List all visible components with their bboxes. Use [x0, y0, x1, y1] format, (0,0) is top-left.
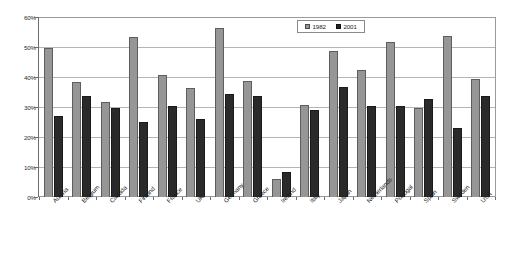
x-axis-tick-mark: [210, 197, 211, 200]
bar-group: [300, 18, 319, 197]
x-axis-tick-mark: [324, 197, 325, 200]
bar-sweden-2001: [453, 128, 462, 197]
bar-group: [357, 18, 376, 197]
legend-swatch-1982-icon: [305, 24, 310, 29]
x-axis-tick-mark: [495, 197, 496, 200]
y-axis-tick-label: 20%: [4, 134, 36, 141]
x-axis-tick-mark: [438, 197, 439, 200]
x-axis-tick-mark: [68, 197, 69, 200]
bar-group: [243, 18, 262, 197]
bar-belgium-1982: [72, 82, 81, 197]
bar-group: [272, 18, 291, 197]
bar-group: [101, 18, 120, 197]
y-axis-tick-label: 60%: [4, 14, 36, 21]
bar-austria-1982: [44, 48, 53, 197]
bar-belgium-2001: [82, 96, 91, 197]
bar-japan-2001: [339, 87, 348, 197]
bar-group: [72, 18, 91, 197]
bar-usa-1982: [471, 79, 480, 197]
x-axis-tick-mark: [467, 197, 468, 200]
y-axis-tick-label: 10%: [4, 164, 36, 171]
bar-finland-1982: [129, 37, 138, 197]
legend-item-2001: 2001: [336, 23, 357, 30]
bar-canada-2001: [111, 108, 120, 198]
bar-finland-2001: [139, 122, 148, 197]
bar-group: [386, 18, 405, 197]
bar-netherlands-2001: [367, 106, 376, 197]
bar-germany-1982: [215, 28, 224, 197]
chart-legend: 1982 2001: [297, 20, 365, 33]
y-axis-tick-label: 40%: [4, 74, 36, 81]
x-axis-tick-mark: [239, 197, 240, 200]
y-axis-tick-label: 50%: [4, 44, 36, 51]
bar-spain-1982: [414, 108, 423, 198]
bar-group: [129, 18, 148, 197]
bar-group: [44, 18, 63, 197]
bar-sweden-1982: [443, 36, 452, 197]
x-axis-tick-mark: [182, 197, 183, 200]
bar-usa-2001: [481, 96, 490, 197]
bar-italy-1982: [300, 105, 309, 197]
x-axis: AustriaBelgiumCanadaFinlandFranceUKGerma…: [39, 199, 495, 253]
bar-france-2001: [168, 106, 177, 197]
bar-portugal-2001: [396, 106, 405, 197]
bar-spain-2001: [424, 99, 433, 197]
bar-italy-2001: [310, 110, 319, 197]
y-axis: 0%10%20%30%40%50%60%: [0, 0, 36, 253]
x-axis-tick-mark: [125, 197, 126, 200]
x-axis-tick-mark: [96, 197, 97, 200]
bar-uk-2001: [196, 119, 205, 197]
bar-uk-1982: [186, 88, 195, 197]
bar-netherlands-1982: [357, 70, 366, 197]
bar-greece-1982: [243, 81, 252, 197]
legend-label-1982: 1982: [313, 23, 326, 30]
x-axis-tick-mark: [353, 197, 354, 200]
y-axis-tick-mark: [34, 197, 38, 198]
bar-germany-2001: [225, 94, 234, 197]
x-axis-tick-mark: [39, 197, 40, 200]
x-axis-tick-mark: [381, 197, 382, 200]
x-axis-tick-mark: [296, 197, 297, 200]
x-axis-tick-mark: [153, 197, 154, 200]
bar-chart: 0%10%20%30%40%50%60% AustriaBelgiumCanad…: [0, 0, 512, 253]
bar-france-1982: [158, 75, 167, 197]
bar-ireland-1982: [272, 179, 281, 197]
bar-group: [329, 18, 348, 197]
x-axis-tick-mark: [267, 197, 268, 200]
legend-swatch-2001-icon: [336, 24, 341, 29]
bar-japan-1982: [329, 51, 338, 197]
bar-austria-2001: [54, 116, 63, 197]
bar-group: [414, 18, 433, 197]
bar-group: [215, 18, 234, 197]
legend-label-2001: 2001: [343, 23, 356, 30]
bar-greece-2001: [253, 96, 262, 197]
bars-layer: [39, 18, 495, 197]
legend-item-1982: 1982: [305, 23, 326, 30]
y-axis-tick-label: 30%: [4, 104, 36, 111]
bar-canada-1982: [101, 102, 110, 197]
x-axis-tick-mark: [410, 197, 411, 200]
y-axis-tick-label: 0%: [4, 194, 36, 201]
bar-group: [471, 18, 490, 197]
bar-group: [158, 18, 177, 197]
bar-group: [186, 18, 205, 197]
bar-group: [443, 18, 462, 197]
bar-portugal-1982: [386, 42, 395, 197]
